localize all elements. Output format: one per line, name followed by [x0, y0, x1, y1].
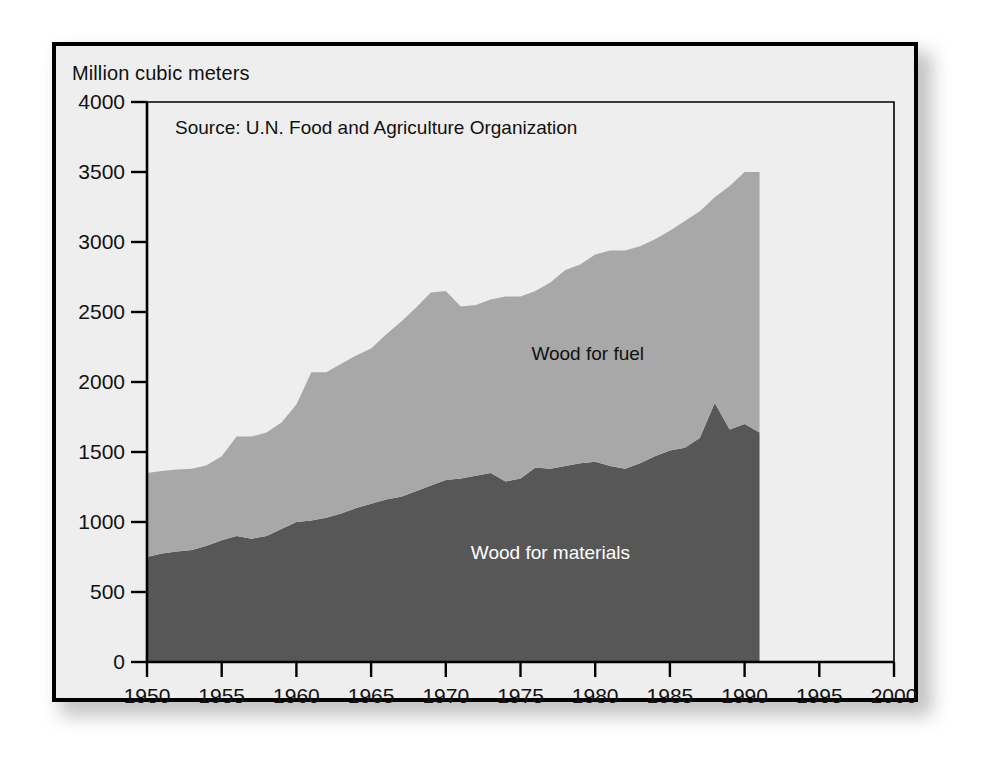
x-tick-label: 1960 [273, 684, 320, 708]
x-tick-label: 1980 [572, 684, 619, 708]
x-tick-label: 1955 [198, 684, 245, 708]
y-tick-label: 1500 [56, 440, 125, 464]
y-tick-label: 500 [56, 580, 125, 604]
series-label-0: Wood for materials [471, 542, 630, 564]
y-tick-label: 3000 [56, 230, 125, 254]
y-tick-label: 2000 [56, 370, 125, 394]
x-tick-label: 1970 [422, 684, 469, 708]
figure-panel: Million cubic meters 0500100015002000250… [52, 42, 918, 702]
x-tick-label: 1950 [124, 684, 171, 708]
x-tick-label: 2000 [871, 684, 918, 708]
source-annotation: Source: U.N. Food and Agriculture Organi… [175, 117, 577, 139]
y-tick-label: 2500 [56, 300, 125, 324]
y-tick-label: 1000 [56, 510, 125, 534]
x-tick-label: 1985 [647, 684, 694, 708]
area-series-group [147, 172, 760, 662]
y-tick-label: 4000 [56, 90, 125, 114]
x-tick-label: 1995 [796, 684, 843, 708]
y-tick-label: 0 [56, 650, 125, 674]
x-tick-label: 1965 [348, 684, 395, 708]
series-label-1: Wood for fuel [531, 343, 644, 365]
x-tick-label: 1975 [497, 684, 544, 708]
y-tick-label: 3500 [56, 160, 125, 184]
x-tick-label: 1990 [721, 684, 768, 708]
area-chart: 0500100015002000250030003500400019501955… [56, 46, 914, 698]
chart-svg [56, 46, 914, 698]
